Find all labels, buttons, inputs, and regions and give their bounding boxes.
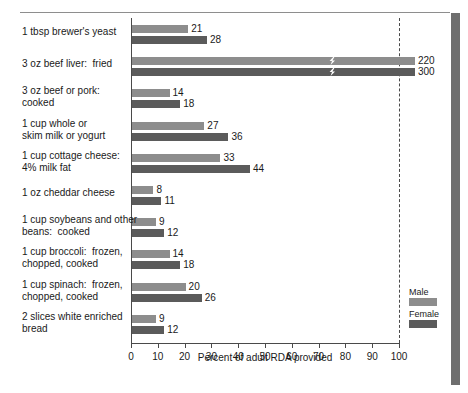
axis-break-mark-row-1 bbox=[328, 68, 338, 76]
bar-value-female-row-2: 18 bbox=[183, 99, 194, 109]
bar-female-row-2 bbox=[132, 100, 180, 108]
legend-label-female: Female bbox=[409, 309, 449, 319]
category-label-9: 2 slices white enrichedbread bbox=[22, 311, 130, 335]
bar-value-female-row-6: 12 bbox=[167, 228, 178, 238]
bar-value-female-row-0: 28 bbox=[210, 35, 221, 45]
bar-female-row-5 bbox=[132, 197, 161, 205]
legend-swatch-female bbox=[409, 320, 437, 328]
bar-female-row-8 bbox=[132, 294, 202, 302]
bar-female-row-9 bbox=[132, 326, 164, 334]
plot-area: 0102030405060708090100 21220142733891420… bbox=[131, 18, 399, 343]
category-label-4: 1 cup cottage cheese:4% milk fat bbox=[22, 150, 130, 174]
bar-value-male-row-6: 9 bbox=[159, 217, 165, 227]
bar-value-female-row-8: 26 bbox=[205, 293, 216, 303]
bar-male-row-7 bbox=[132, 250, 170, 258]
chart-page: 0102030405060708090100 21220142733891420… bbox=[0, 0, 468, 393]
bar-value-female-row-3: 36 bbox=[231, 132, 242, 142]
bar-female-row-0 bbox=[132, 36, 207, 44]
category-label-1: 3 oz beef liver: fried bbox=[22, 58, 130, 70]
top-divider-rule bbox=[20, 12, 450, 13]
bar-female-row-7 bbox=[132, 261, 180, 269]
bar-male-row-2 bbox=[132, 89, 170, 97]
x-tick-80 bbox=[345, 343, 346, 348]
bar-male-row-8 bbox=[132, 283, 186, 291]
x-tick-90 bbox=[372, 343, 373, 348]
category-label-7: 1 cup broccoli: frozen,chopped, cooked bbox=[22, 246, 130, 270]
bar-value-female-row-1: 300 bbox=[418, 67, 435, 77]
bar-value-female-row-7: 18 bbox=[183, 260, 194, 270]
x-tick-0 bbox=[131, 343, 132, 348]
bar-value-female-row-9: 12 bbox=[167, 325, 178, 335]
bar-value-female-row-5: 11 bbox=[164, 196, 174, 206]
bar-value-female-row-4: 44 bbox=[253, 164, 264, 174]
category-label-2: 3 oz beef or pork:cooked bbox=[22, 85, 130, 109]
bar-female-row-6 bbox=[132, 229, 164, 237]
bar-male-row-9 bbox=[132, 315, 156, 323]
legend-swatch-male bbox=[409, 298, 437, 306]
legend-item-male: Male bbox=[409, 287, 449, 306]
bar-value-male-row-5: 8 bbox=[156, 185, 162, 195]
bar-male-row-0 bbox=[132, 25, 188, 33]
legend: Male Female bbox=[409, 287, 449, 331]
bar-value-male-row-7: 14 bbox=[173, 249, 184, 259]
x-tick-20 bbox=[185, 343, 186, 348]
right-edge-bar bbox=[451, 13, 460, 385]
x-axis-title: Percent of adult RDA provided bbox=[131, 352, 399, 363]
bar-female-row-4 bbox=[132, 165, 250, 173]
axis-break-mark-row-1 bbox=[328, 57, 338, 65]
bar-female-row-1 bbox=[132, 68, 415, 76]
x-tick-30 bbox=[211, 343, 212, 348]
category-label-5: 1 oz cheddar cheese bbox=[22, 187, 130, 199]
bar-male-row-3 bbox=[132, 122, 204, 130]
bar-male-row-4 bbox=[132, 154, 220, 162]
x-tick-10 bbox=[158, 343, 159, 348]
bar-value-male-row-1: 220 bbox=[418, 56, 435, 66]
x-tick-40 bbox=[238, 343, 239, 348]
bar-value-male-row-4: 33 bbox=[223, 153, 234, 163]
bar-value-male-row-3: 27 bbox=[207, 121, 218, 131]
bar-female-row-3 bbox=[132, 133, 228, 141]
bar-male-row-5 bbox=[132, 186, 153, 194]
x-tick-70 bbox=[319, 343, 320, 348]
rda-reference-line bbox=[399, 18, 400, 343]
bar-male-row-1 bbox=[132, 57, 415, 65]
bar-value-male-row-9: 9 bbox=[159, 314, 165, 324]
bar-value-male-row-2: 14 bbox=[173, 88, 184, 98]
category-label-0: 1 tbsp brewer's yeast bbox=[22, 26, 130, 38]
category-label-6: 1 cup soybeans and otherbeans: cooked bbox=[22, 214, 130, 238]
x-tick-60 bbox=[292, 343, 293, 348]
bar-value-male-row-8: 20 bbox=[189, 282, 200, 292]
x-tick-100 bbox=[399, 343, 400, 348]
legend-item-female: Female bbox=[409, 309, 449, 328]
bar-value-male-row-0: 21 bbox=[191, 24, 202, 34]
category-label-3: 1 cup whole orskim milk or yogurt bbox=[22, 118, 130, 142]
legend-label-male: Male bbox=[409, 287, 449, 297]
category-label-8: 1 cup spinach: frozen,chopped, cooked bbox=[22, 279, 130, 303]
x-tick-50 bbox=[265, 343, 266, 348]
